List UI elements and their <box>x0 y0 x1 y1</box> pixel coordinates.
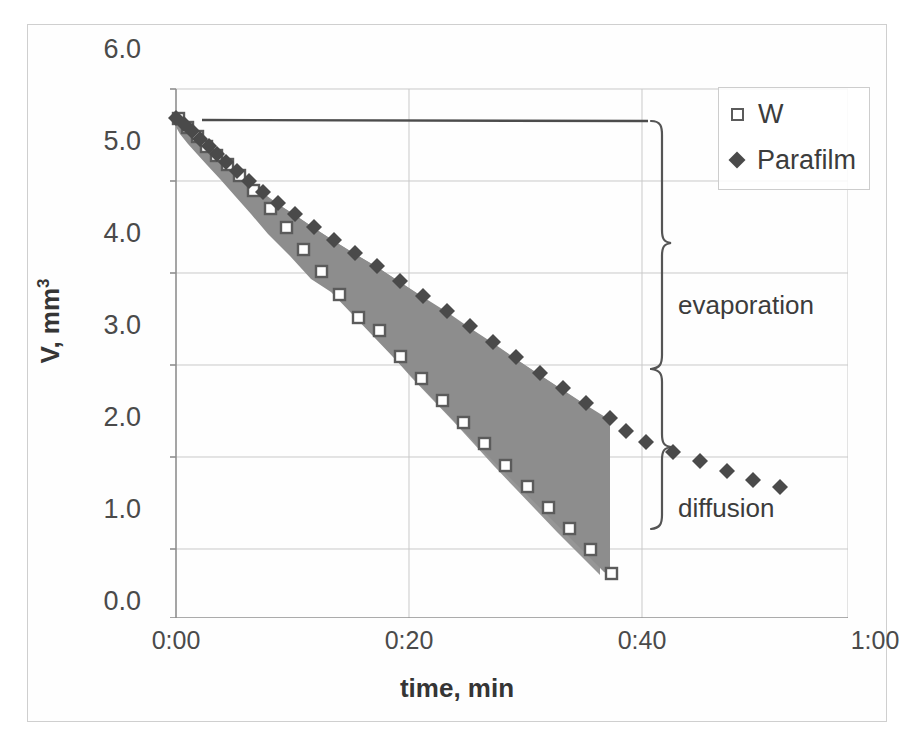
legend-item-w[interactable]: W <box>731 94 783 134</box>
y-axis-title-exponent: 3 <box>34 278 53 287</box>
x-tick-2: 0:40 <box>618 626 667 655</box>
legend-item-parafilm[interactable]: Parafilm <box>731 140 856 180</box>
y-tick-1: 1.0 <box>103 494 141 525</box>
legend-label-w: W <box>758 99 783 130</box>
x-axis-title: time, min <box>28 673 886 704</box>
reference-line-initial-volume <box>202 120 648 121</box>
y-tick-4: 4.0 <box>103 218 141 249</box>
y-axis-title-base: V, mm <box>35 288 65 364</box>
chart-figure: 6.0 5.0 4.0 3.0 2.0 1.0 0.0 V, mm3 0:00 … <box>27 24 887 722</box>
x-tick-3: 1:00 <box>851 626 900 655</box>
y-tick-6: 6.0 <box>103 34 141 65</box>
y-tick-0: 0.0 <box>103 586 141 617</box>
open-square-marker-icon <box>731 108 744 121</box>
y-axis-title: V, mm3 <box>34 278 66 363</box>
x-tick-0: 0:00 <box>152 626 201 655</box>
filled-diamond-marker-icon <box>729 152 746 169</box>
annotation-diffusion: diffusion <box>678 493 774 524</box>
y-tick-3: 3.0 <box>103 310 141 341</box>
chart-legend[interactable]: W Parafilm <box>718 87 870 190</box>
x-tick-1: 0:20 <box>385 626 434 655</box>
y-tick-5: 5.0 <box>103 126 141 157</box>
brace-evaporation <box>651 121 671 369</box>
y-tick-2: 2.0 <box>103 402 141 433</box>
legend-label-parafilm: Parafilm <box>757 145 856 176</box>
annotation-evaporation: evaporation <box>678 290 814 321</box>
